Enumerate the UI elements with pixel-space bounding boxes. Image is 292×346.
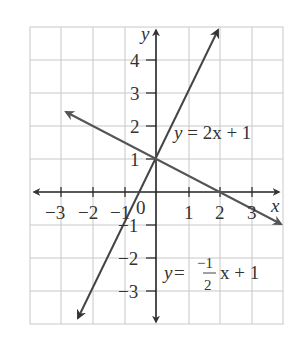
x-tick-label: 1	[184, 202, 194, 223]
eq1-y: y	[172, 122, 183, 143]
y-tick-label: 4	[130, 50, 140, 71]
y-tick-label: −1	[118, 215, 138, 236]
line-y-2x-plus-1	[78, 30, 218, 318]
eq2-denominator: 2	[204, 277, 212, 293]
coordinate-plane: y x 0 −3 −2 −1 1 2 3 4 3 2 1 −1 −2 −3 y …	[0, 0, 292, 346]
y-axis-label: y	[139, 23, 150, 44]
eq2-tail: x + 1	[220, 262, 259, 283]
y-tick-label: 2	[130, 116, 140, 137]
y-tick-label: 3	[130, 83, 140, 104]
equation-label-1: y = 2x + 1	[172, 122, 251, 143]
x-axis-label: x	[270, 195, 280, 216]
eq1-rest: = 2x + 1	[182, 122, 251, 143]
equation-label-2: y = −1 2 x + 1	[162, 255, 259, 293]
x-tick-label: −3	[45, 202, 65, 223]
y-tick-label: 1	[130, 149, 140, 170]
x-tick-label: 3	[247, 202, 257, 223]
x-tick-label: −2	[78, 202, 98, 223]
y-tick-label: −3	[118, 281, 138, 302]
eq2-numerator: −1	[197, 255, 213, 271]
y-tick-label: −2	[118, 248, 138, 269]
x-tick-label: 2	[215, 202, 225, 223]
eq2-y: y	[162, 262, 173, 283]
eq2-eq: =	[174, 262, 185, 283]
